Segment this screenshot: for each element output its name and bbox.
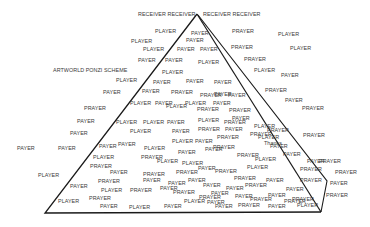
pyramid-word-label: PAYER bbox=[186, 37, 204, 43]
pyramid-word-label: PRAYER bbox=[303, 132, 325, 138]
pyramid-word-label: PRAYER bbox=[171, 89, 193, 95]
pyramid-word-label: PLAYER bbox=[144, 145, 165, 151]
pyramid-word-label: PRAYER bbox=[245, 182, 267, 188]
pyramid-word-label: PAYER bbox=[281, 72, 299, 78]
pyramid-word-label: PAYER bbox=[228, 92, 246, 98]
pyramid-word-label: PRAYER bbox=[302, 105, 324, 111]
pyramid-word-label: PRAYER bbox=[265, 87, 287, 93]
pyramid-word-label: PRAYER bbox=[300, 166, 322, 172]
pyramid-word-label: PLAYER bbox=[184, 198, 205, 204]
pyramid-word-label: RECEIVER RECEIVER bbox=[203, 11, 260, 17]
pyramid-word-label: PRAYER bbox=[197, 106, 219, 112]
pyramid-word-label: PLAYER bbox=[254, 67, 275, 73]
pyramid-word-label: PLAYER bbox=[155, 28, 176, 34]
pyramid-word-label: PAYER bbox=[100, 203, 118, 209]
pyramid-word-label: PAYER bbox=[103, 89, 121, 95]
pyramid-word-label: PLAYER bbox=[166, 103, 187, 109]
pyramid-word-label: PAYER bbox=[207, 199, 225, 205]
pyramid-word-label: PAYER bbox=[138, 57, 156, 63]
pyramid-word-label: PAYER bbox=[186, 78, 204, 84]
pyramid-word-label: PRAYER bbox=[90, 163, 112, 169]
pyramid-word-label: PAYER bbox=[283, 151, 301, 157]
pyramid-word-label: PLAYER bbox=[93, 154, 114, 160]
pyramid-word-label: PAYER bbox=[178, 149, 196, 155]
diagram-title: ARTWORLD PONZI SCHEME bbox=[53, 67, 127, 73]
pyramid-word-label: PAYER bbox=[286, 186, 304, 192]
pyramid-word-label: PLAYER bbox=[38, 172, 59, 178]
pyramid-word-label: PAYER bbox=[70, 183, 88, 189]
pyramid-word-label: PAYER bbox=[118, 141, 136, 147]
pyramid-word-label: PAYER bbox=[168, 180, 186, 186]
pyramid-word-label: PLAYER bbox=[131, 38, 152, 44]
pyramid-word-label: PRAYER bbox=[232, 28, 254, 34]
pyramid-word-label: PAYER bbox=[266, 177, 284, 183]
pyramid-word-label: PAYER bbox=[142, 88, 160, 94]
pyramid-word-label: PAYER bbox=[165, 57, 183, 63]
pyramid-word-label: PRAYER bbox=[231, 44, 253, 50]
pyramid-word-label: PAYER bbox=[153, 79, 171, 85]
pyramid-word-label: PAYER bbox=[270, 143, 288, 149]
pyramid-word-label: PLAYER bbox=[130, 100, 151, 106]
pyramid-word-label: PAYER bbox=[195, 138, 213, 144]
pyramid-word-label: PAYER bbox=[203, 182, 221, 188]
pyramid-word-label: PAYER bbox=[77, 118, 95, 124]
pyramid-word-label: PAYER bbox=[143, 177, 161, 183]
pyramid-word-label: PAYER bbox=[58, 145, 76, 151]
pyramid-word-label: PAYER bbox=[172, 128, 190, 134]
pyramid-word-label: PAYER bbox=[214, 79, 232, 85]
pyramid-word-label: PAYER bbox=[17, 145, 35, 151]
pyramid-word-label: PLAYER bbox=[143, 46, 164, 52]
pyramid-word-label: PRAYER bbox=[84, 105, 106, 111]
pyramid-word-label: RECEIVER RECEIVER bbox=[138, 11, 195, 17]
pyramid-word-label: PAYER bbox=[164, 203, 182, 209]
pyramid-word-label: PRAYER bbox=[234, 175, 256, 181]
pyramid-word-label: PAYER bbox=[99, 143, 117, 149]
pyramid-word-label: PLAYER bbox=[290, 45, 311, 51]
pyramid-word-label: PAYER bbox=[110, 169, 128, 175]
pyramid-word-label: PAYER bbox=[167, 119, 185, 125]
pyramid-word-label: PLAYER bbox=[157, 158, 178, 164]
pyramid-word-label: PLAYER bbox=[116, 119, 137, 125]
pyramid-word-label: PLAYER bbox=[297, 202, 318, 208]
pyramid-word-label: PAYER bbox=[200, 46, 218, 52]
pyramid-word-label: PRAYER bbox=[98, 178, 120, 184]
pyramid-word-label: PLAYER bbox=[278, 31, 299, 37]
pyramid-word-label: PLAYER bbox=[129, 204, 150, 210]
pyramid-word-label: PLAYER bbox=[101, 187, 122, 193]
pyramid-word-label: PRAYER bbox=[300, 177, 322, 183]
pyramid-word-label: PAYER bbox=[191, 30, 209, 36]
pyramid-word-label: PLAYER bbox=[116, 77, 137, 83]
pyramid-word-label: PAYER bbox=[225, 126, 243, 132]
pyramid-word-label: PLAYER bbox=[198, 59, 219, 65]
pyramid-word-label: PRAYER bbox=[229, 107, 251, 113]
pyramid-word-label: PAYER bbox=[285, 97, 303, 103]
pyramid-word-label: PLAYER bbox=[255, 156, 276, 162]
pyramid-word-label: PLAYER bbox=[162, 69, 183, 75]
pyramid-word-label: PRAYER bbox=[244, 56, 266, 62]
pyramid-word-label: PLAYER bbox=[143, 119, 164, 125]
pyramid-word-label: PAYER bbox=[177, 46, 195, 52]
pyramid-word-label: PRAYER bbox=[173, 189, 195, 195]
pyramid-word-label: PRAYER bbox=[335, 169, 357, 175]
pyramid-word-label: PLAYER bbox=[247, 164, 268, 170]
pyramid-word-label: PAYER bbox=[330, 180, 348, 186]
pyramid-word-label: PRAYER bbox=[130, 187, 152, 193]
pyramid-word-label: PLAYER bbox=[198, 117, 219, 123]
pyramid-word-label: PRAYER bbox=[215, 168, 237, 174]
pyramid-word-label: PAYER bbox=[70, 130, 88, 136]
pyramid-word-label: PRAYER bbox=[238, 202, 260, 208]
pyramid-word-label: PRAYER bbox=[89, 195, 111, 201]
pyramid-word-label: PLAYER bbox=[172, 138, 193, 144]
pyramid-word-label: PRAYER bbox=[224, 119, 246, 125]
pyramid-word-label: PLAYER bbox=[130, 128, 151, 134]
pyramid-word-label: PRAYER bbox=[198, 126, 220, 132]
pyramid-word-label: PLAYER bbox=[182, 160, 203, 166]
pyramid-word-label: PRAYER bbox=[176, 169, 198, 175]
pyramid-word-label: PLAYER bbox=[58, 198, 79, 204]
pyramid-word-label: PRAYER bbox=[319, 158, 341, 164]
pyramid-word-label: PRAYER bbox=[217, 134, 239, 140]
ponzi-pyramid-diagram: RECEIVER RECEIVERRECEIVER RECEIVERPLAYER… bbox=[0, 0, 370, 227]
pyramid-word-label: PRAYER bbox=[326, 192, 348, 198]
pyramid-word-label: PRAYER bbox=[213, 144, 235, 150]
